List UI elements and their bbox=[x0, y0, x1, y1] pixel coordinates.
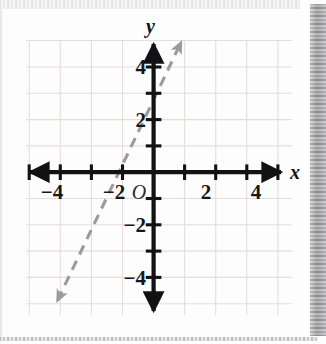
graph-svg-canvas bbox=[0, 0, 326, 344]
y-tick-label-2: 2 bbox=[108, 110, 146, 131]
x-tick-label-neg4: −4 bbox=[41, 182, 63, 203]
y-tick-label-4: 4 bbox=[108, 57, 146, 78]
x-tick-label-neg2: −2 bbox=[103, 182, 125, 203]
y-tick-label-neg4: −4 bbox=[100, 268, 146, 289]
x-tick-label-2: 2 bbox=[201, 182, 212, 203]
y-axis bbox=[146, 44, 162, 311]
origin-label: O bbox=[132, 182, 146, 202]
coordinate-plane-figure: −4 −2 O 2 4 4 2 −2 −4 x y bbox=[0, 0, 326, 344]
y-axis-name-label: y bbox=[146, 16, 155, 36]
screenshot-root: −4 −2 O 2 4 4 2 −2 −4 x y bbox=[0, 0, 326, 344]
x-tick-label-4: 4 bbox=[251, 182, 262, 203]
x-axis-name-label: x bbox=[290, 162, 300, 182]
y-tick-label-neg2: −2 bbox=[100, 215, 146, 236]
